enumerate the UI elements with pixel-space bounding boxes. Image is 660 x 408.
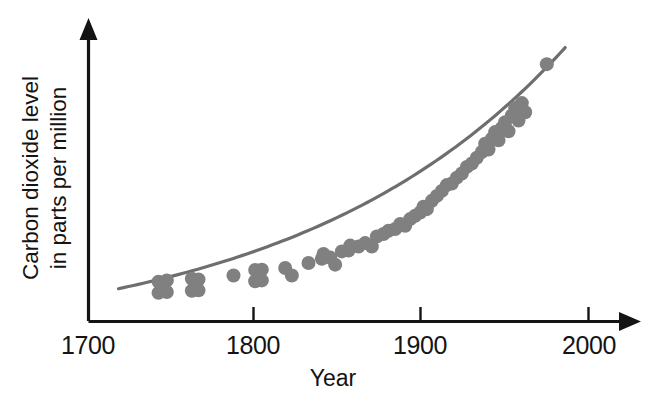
y-axis-title-line1: Carbon dioxide level — [18, 76, 43, 280]
data-point — [255, 273, 269, 287]
x-axis-tick-labels: 1700 1800 1900 2000 — [61, 331, 616, 359]
x-tick-label-1700: 1700 — [61, 331, 115, 359]
data-point — [302, 256, 316, 270]
x-tick-label-1900: 1900 — [393, 331, 447, 359]
x-tick-label-2000: 2000 — [562, 331, 616, 359]
data-point — [227, 268, 241, 282]
data-point — [328, 258, 342, 272]
data-point — [285, 268, 299, 282]
chart-canvas: Carbon dioxide level in parts per millio… — [0, 0, 660, 408]
data-point — [502, 124, 516, 138]
data-point — [160, 285, 174, 299]
data-point — [518, 105, 532, 119]
x-axis-arrowhead — [619, 312, 641, 331]
co2-chart-figure: Carbon dioxide level in parts per millio… — [0, 0, 660, 408]
y-axis-title: Carbon dioxide level in parts per millio… — [18, 76, 71, 280]
x-tick-label-1800: 1800 — [226, 331, 280, 359]
data-point — [192, 283, 206, 297]
scatter-points-layer — [152, 57, 554, 300]
data-point — [540, 57, 554, 71]
y-axis-arrowhead — [80, 18, 98, 40]
x-axis-ticks — [89, 307, 589, 321]
x-axis-title: Year — [310, 365, 357, 391]
y-axis-title-line2: in parts per million — [46, 87, 71, 270]
